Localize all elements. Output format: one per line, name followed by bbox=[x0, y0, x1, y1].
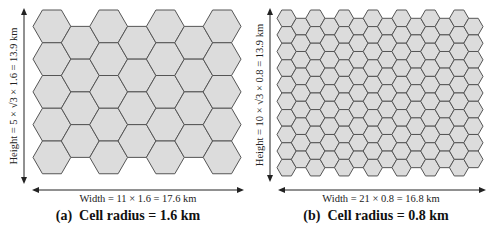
hex-cells-a bbox=[33, 10, 241, 174]
hex-cell bbox=[464, 101, 483, 118]
height-dimension-arrow-b bbox=[267, 8, 273, 182]
height-label-b: Height = 10 × √3 × 0.8 = 13.9 km bbox=[254, 24, 265, 166]
height-dimension-arrow-a bbox=[21, 8, 27, 184]
hex-cell bbox=[464, 134, 483, 151]
caption-a: (a) Cell radius = 1.6 km bbox=[56, 208, 201, 224]
hexagonal-cell-figure: Height = 5 × √3 × 1.6 = 13.9 km Width = … bbox=[0, 0, 494, 230]
panel-b-cell-grid: Height = 10 × √3 × 0.8 = 13.9 km Width =… bbox=[254, 8, 486, 224]
hex-cell bbox=[464, 85, 483, 102]
hex-cell bbox=[464, 151, 483, 168]
hex-cell bbox=[464, 51, 483, 68]
width-label-b: Width = 21 × 0.8 = 16.8 km bbox=[322, 193, 439, 204]
hex-cell bbox=[464, 18, 483, 35]
height-label-a: Height = 5 × √3 × 1.6 = 13.9 km bbox=[8, 27, 19, 164]
hex-cells-b bbox=[277, 10, 483, 176]
hex-cell bbox=[464, 118, 483, 135]
width-label-a: Width = 11 × 1.6 = 17.6 km bbox=[80, 193, 197, 204]
hex-cell bbox=[464, 68, 483, 85]
panel-a-cell-grid: Height = 5 × √3 × 1.6 = 13.9 km Width = … bbox=[8, 8, 244, 224]
hex-cell bbox=[464, 35, 483, 52]
caption-b: (b) Cell radius = 0.8 km bbox=[303, 208, 449, 224]
